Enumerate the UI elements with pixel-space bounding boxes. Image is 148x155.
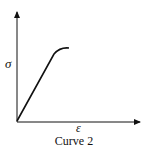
- y-axis-label: σ: [5, 56, 11, 72]
- figure-caption: Curve 2: [0, 134, 148, 149]
- stress-strain-diagram: [0, 0, 148, 155]
- curve-2-line: [17, 48, 69, 121]
